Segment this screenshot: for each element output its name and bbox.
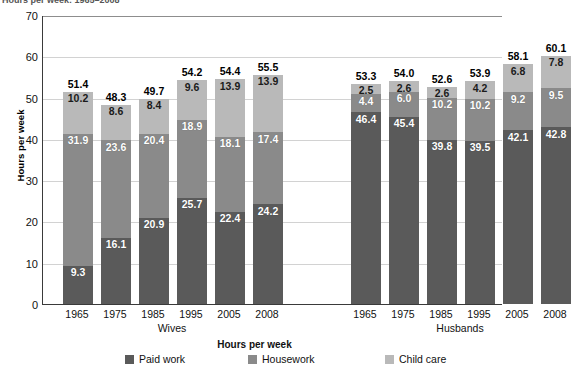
stacked-bar[interactable]: 39.810.22.652.6: [427, 87, 457, 304]
bar-segment-housework[interactable]: 20.4: [139, 134, 169, 218]
bar-total-label: 54.0: [383, 68, 425, 79]
bar-segment-housework[interactable]: 10.2: [465, 99, 495, 141]
stacked-bar[interactable]: 9.331.910.251.4: [63, 92, 93, 304]
stacked-bar[interactable]: 45.46.02.654.0: [389, 81, 419, 304]
bar-segment-housework[interactable]: 18.9: [177, 120, 207, 198]
bar-segment-paidwork[interactable]: 42.8: [541, 127, 571, 304]
bar-segment-childcare[interactable]: 8.6: [101, 105, 131, 141]
bar-segment-housework[interactable]: 31.9: [63, 134, 93, 266]
bar-segment-housework[interactable]: 6.0: [389, 92, 419, 117]
bar-segment-childcare[interactable]: 8.4: [139, 99, 169, 134]
stacked-bar[interactable]: 46.44.42.553.3: [351, 84, 381, 304]
bar-segment-paidwork[interactable]: 22.4: [215, 212, 245, 304]
bar-segment-value: 18.1: [220, 137, 240, 150]
stacked-bar[interactable]: 24.217.413.955.5: [253, 75, 283, 304]
bar-segment-housework[interactable]: 10.2: [427, 98, 457, 140]
bar-segment-paidwork[interactable]: 25.7: [177, 198, 207, 304]
bar-segment-childcare[interactable]: 9.6: [177, 80, 207, 120]
bar-segment-value: 31.9: [68, 134, 88, 147]
bar-total-label: 49.7: [133, 86, 175, 97]
bar-segment-value: 46.4: [356, 112, 376, 125]
bar-segment-childcare[interactable]: 10.2: [63, 92, 93, 134]
bar-segment-value: 8.6: [109, 105, 124, 118]
legend-item-child-care[interactable]: Child care: [385, 353, 446, 365]
bar-segment-value: 42.1: [508, 130, 528, 143]
bar-segment-childcare[interactable]: 13.9: [253, 75, 283, 132]
bar-segment-paidwork[interactable]: 46.4: [351, 112, 381, 304]
legend-item-paid-work[interactable]: Paid work: [125, 353, 185, 365]
stacked-bar[interactable]: 42.19.26.858.1: [503, 64, 533, 304]
legend-label: Child care: [399, 353, 446, 365]
bar-total-label: 60.1: [535, 43, 575, 54]
bar-total-label: 48.3: [95, 92, 137, 103]
stacked-bar[interactable]: 20.920.48.449.7: [139, 99, 169, 304]
bar-segment-paidwork[interactable]: 20.9: [139, 218, 169, 304]
stacked-bar[interactable]: 42.89.57.860.1: [541, 56, 571, 304]
bar-segment-value: 6.0: [397, 92, 412, 105]
y-axis-tick-label: 40: [8, 135, 38, 145]
y-axis-tick-label: 70: [8, 11, 38, 21]
bar-segment-housework[interactable]: 23.6: [101, 140, 131, 237]
bar-segment-value: 6.8: [511, 64, 526, 77]
y-axis-tick-label: 10: [8, 259, 38, 269]
x-axis-tick-label: 2008: [245, 309, 289, 320]
bar-total-label: 51.4: [57, 79, 99, 90]
bar-segment-value: 8.4: [147, 99, 162, 112]
bar-segment-value: 25.7: [182, 198, 202, 211]
bar-segment-childcare[interactable]: 4.2: [465, 81, 495, 98]
bar-total-label: 54.2: [171, 67, 213, 78]
bar-total-label: 55.5: [247, 62, 289, 73]
bar-segment-childcare[interactable]: 2.6: [389, 81, 419, 92]
bar-total-label: 54.4: [209, 66, 251, 77]
bar-segment-childcare[interactable]: 6.8: [503, 64, 533, 92]
legend: Paid workHouseworkChild care: [0, 353, 509, 369]
bar-segment-paidwork[interactable]: 16.1: [101, 238, 131, 304]
bar-segment-value: 2.6: [397, 81, 412, 94]
bar-segment-value: 13.9: [220, 79, 240, 92]
bar-segment-value: 20.4: [144, 134, 164, 147]
bar-segment-housework[interactable]: 4.4: [351, 94, 381, 112]
y-axis-tick-label: 20: [8, 217, 38, 227]
bar-total-label: 53.9: [459, 68, 501, 79]
bar-segment-value: 16.1: [106, 238, 126, 251]
bar-segment-value: 9.2: [511, 92, 526, 105]
bar-segment-value: 42.8: [546, 127, 566, 140]
bar-segment-value: 9.6: [185, 80, 200, 93]
bar-segment-childcare[interactable]: 13.9: [215, 79, 245, 136]
legend-swatch-icon: [385, 355, 394, 364]
bar-segment-paidwork[interactable]: 9.3: [63, 266, 93, 304]
bar-segment-childcare[interactable]: 2.6: [427, 87, 457, 98]
y-axis-ticks: 010203040506070: [8, 0, 38, 371]
legend-item-housework[interactable]: Housework: [248, 353, 315, 365]
bar-segment-value: 18.9: [182, 120, 202, 133]
bar-segment-housework[interactable]: 18.1: [215, 137, 245, 212]
bar-segment-paidwork[interactable]: 39.5: [465, 141, 495, 304]
bar-segment-childcare[interactable]: 7.8: [541, 56, 571, 88]
legend-swatch-icon: [125, 355, 134, 364]
bar-segment-housework[interactable]: 9.2: [503, 92, 533, 130]
bar-segment-value: 22.4: [220, 212, 240, 225]
bar-segment-housework[interactable]: 17.4: [253, 132, 283, 204]
stacked-bar[interactable]: 22.418.113.954.4: [215, 79, 245, 304]
bar-segment-paidwork[interactable]: 42.1: [503, 130, 533, 304]
bar-segment-paidwork[interactable]: 39.8: [427, 140, 457, 304]
y-axis-tick-label: 50: [8, 94, 38, 104]
bar-segment-housework[interactable]: 9.5: [541, 88, 571, 127]
bar-series-container: 9.331.910.251.416.123.68.648.320.920.48.…: [43, 16, 502, 304]
bar-segment-value: 20.9: [144, 218, 164, 231]
stacked-bar[interactable]: 39.510.24.253.9: [465, 81, 495, 304]
stacked-bar[interactable]: 25.718.99.654.2: [177, 80, 207, 304]
plot-area: 9.331.910.251.416.123.68.648.320.920.48.…: [42, 16, 502, 305]
bar-segment-childcare[interactable]: 2.5: [351, 84, 381, 94]
bar-segment-paidwork[interactable]: 24.2: [253, 204, 283, 304]
bar-segment-value: 24.2: [258, 204, 278, 217]
bar-segment-value: 23.6: [106, 140, 126, 153]
bar-segment-value: 39.8: [432, 140, 452, 153]
bar-segment-value: 13.9: [258, 75, 278, 88]
group-label-wives: Wives: [92, 323, 252, 334]
bar-segment-paidwork[interactable]: 45.4: [389, 117, 419, 304]
y-axis-tick-label: 60: [8, 52, 38, 62]
stacked-bar[interactable]: 16.123.68.648.3: [101, 105, 131, 304]
bar-total-label: 58.1: [497, 51, 539, 62]
